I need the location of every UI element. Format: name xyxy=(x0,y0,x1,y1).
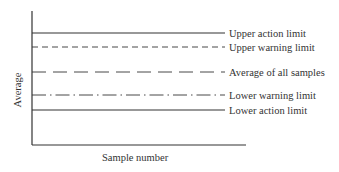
label-lower-action-limit: Lower action limit xyxy=(229,105,307,116)
label-lower-warning-limit: Lower warning limit xyxy=(229,90,316,101)
y-axis-label: Average xyxy=(12,72,23,107)
control-chart: Upper action limit Upper warning limit A… xyxy=(0,0,339,172)
label-upper-warning-limit: Upper warning limit xyxy=(229,42,315,53)
label-upper-action-limit: Upper action limit xyxy=(229,28,306,39)
x-axis-label: Sample number xyxy=(102,152,169,163)
label-average: Average of all samples xyxy=(229,67,325,78)
